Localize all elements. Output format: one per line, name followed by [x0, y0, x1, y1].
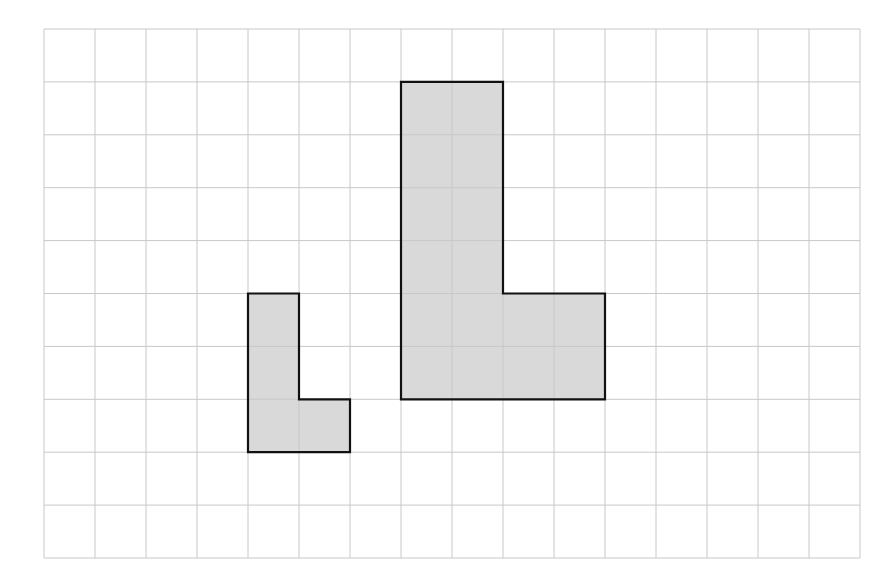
grid-diagram — [0, 0, 892, 580]
shapes-layer — [248, 82, 605, 452]
grid-layer — [44, 29, 860, 558]
